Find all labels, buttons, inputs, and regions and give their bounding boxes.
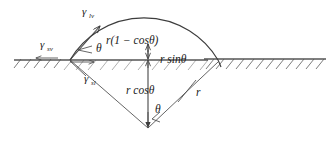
radius-line-right xyxy=(148,62,218,128)
radius-label-leader xyxy=(178,80,196,102)
height-expression-label: r(1 − cosθ) xyxy=(106,34,159,47)
substrate-hatching-right xyxy=(206,59,324,69)
gamma-lv-subscript: lv xyxy=(89,12,95,20)
gamma-lv-symbol: γ xyxy=(82,5,87,17)
contact-angle-diagram: γ lv γ sv γ sl θ θ r(1 − cosθ) r sinθ r … xyxy=(0,0,328,141)
radius-label: r xyxy=(196,86,201,98)
gamma-sv-subscript: sv xyxy=(47,45,54,53)
halfwidth-expression-label: r sinθ xyxy=(160,53,187,65)
depth-expression-label: r cosθ xyxy=(126,84,155,96)
gamma-sv-label-group: γ sv xyxy=(40,38,54,53)
gamma-sl-label-group: γ sl xyxy=(84,72,96,87)
gamma-sl-symbol: γ xyxy=(84,72,89,84)
gamma-lv-label-group: γ lv xyxy=(82,5,95,20)
diagram-canvas: γ lv γ sv γ sl θ θ r(1 − cosθ) r sinθ r … xyxy=(0,0,328,141)
contact-angle-label: θ xyxy=(96,42,102,54)
gamma-sv-symbol: γ xyxy=(40,38,45,50)
gamma-sl-subscript: sl xyxy=(91,79,96,87)
center-angle-label: θ xyxy=(155,103,161,115)
